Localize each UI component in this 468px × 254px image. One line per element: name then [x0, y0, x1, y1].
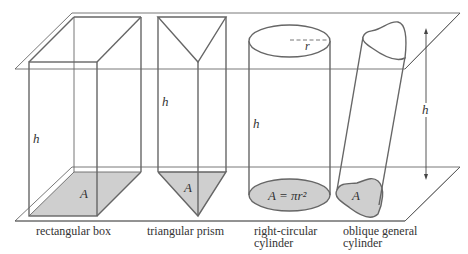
box-base-label: A [79, 186, 88, 201]
oblique-general-cylinder [336, 22, 406, 217]
caption-rectangular-box: rectangular box [36, 224, 111, 238]
oblique-base-label: A [351, 188, 360, 203]
cylinder-base-label: A = πr² [267, 188, 308, 203]
arrow-height-label: h [422, 102, 429, 117]
prism-cylinder-diagram: h A h A r h A = πr² A h [0, 0, 468, 254]
cylinder-radius-label: r [305, 39, 310, 53]
triangular-prism [158, 17, 226, 216]
prism-base-label: A [183, 180, 192, 195]
caption-triangular-prism: triangular prism [147, 224, 225, 238]
caption-right-circular-2: cylinder [254, 236, 293, 250]
right-circular-cylinder [249, 25, 330, 211]
box-height-label: h [33, 131, 40, 146]
cylinder-height-label: h [253, 116, 260, 131]
caption-oblique-2: cylinder [343, 236, 382, 250]
prism-height-label: h [162, 94, 169, 109]
